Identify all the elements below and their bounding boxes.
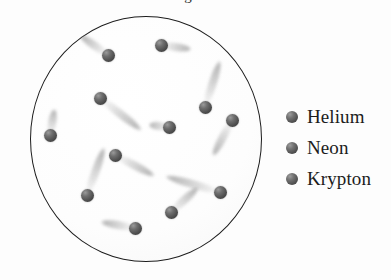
gas-particle: [165, 206, 178, 219]
caption-fragment-text: g: [168, 0, 208, 3]
legend: Helium Neon Krypton: [286, 101, 390, 194]
neon-marker-icon: [286, 142, 298, 154]
helium-marker-icon: [286, 111, 298, 123]
gas-particle: [199, 101, 212, 114]
legend-label-krypton: Krypton: [307, 168, 371, 190]
gas-particle: [44, 129, 57, 142]
gas-particle: [214, 186, 227, 199]
gas-particle: [226, 114, 239, 127]
legend-label-neon: Neon: [307, 137, 349, 159]
legend-label-helium: Helium: [307, 106, 365, 128]
krypton-marker-icon: [286, 173, 298, 185]
legend-item-krypton: Krypton: [286, 163, 390, 194]
particle-field: [30, 16, 262, 262]
gas-particle: [94, 92, 107, 105]
gas-particle: [109, 149, 122, 162]
gas-particle: [155, 39, 168, 52]
diagram-page: g Helium Neon Krypton: [0, 0, 391, 280]
legend-item-helium: Helium: [286, 101, 390, 132]
gas-particle: [81, 189, 94, 202]
gas-particle: [129, 222, 142, 235]
legend-item-neon: Neon: [286, 132, 390, 163]
gas-particle: [163, 121, 176, 134]
gas-particle: [102, 49, 115, 62]
